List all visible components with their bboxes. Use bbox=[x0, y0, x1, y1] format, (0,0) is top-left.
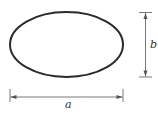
width-label: a bbox=[65, 98, 72, 111]
ellipse-diagram: b a bbox=[0, 0, 158, 115]
height-label: b bbox=[150, 38, 157, 51]
ellipse-shape bbox=[10, 12, 123, 77]
